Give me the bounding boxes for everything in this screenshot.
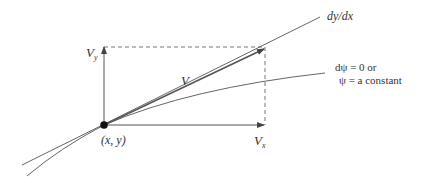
- point-label: (x, y): [101, 134, 126, 146]
- streamline-diagram: [0, 0, 423, 183]
- point-marker: [100, 121, 108, 129]
- streamline-label-2: ψ = a constant: [339, 75, 402, 86]
- v-label: V: [181, 74, 189, 87]
- tangent-line: [22, 17, 320, 165]
- vy-label: Vy: [86, 46, 98, 59]
- streamline-label-1: dψ = 0 or: [335, 62, 377, 73]
- slope-label: dy/dx: [327, 10, 353, 22]
- vx-label: Vx: [254, 134, 266, 147]
